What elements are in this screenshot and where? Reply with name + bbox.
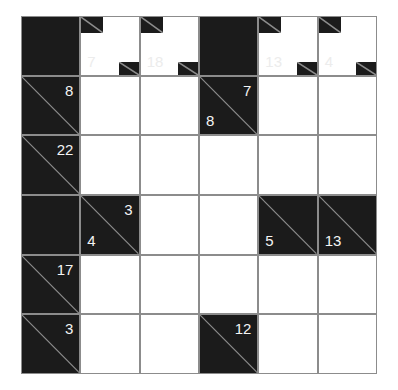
across-clue: 17 <box>57 262 74 277</box>
entry-cell[interactable] <box>141 136 198 194</box>
clue-cell-across-12: 12 <box>200 315 257 373</box>
clue-cell-down-13: 13 <box>319 196 376 254</box>
entry-cell[interactable] <box>259 136 316 194</box>
entry-cell[interactable] <box>200 136 257 194</box>
kakuro-board: 7 18 13 4 8 7 8 22 3 4 <box>21 16 377 374</box>
across-clue: 3 <box>65 321 73 336</box>
clue-cell-down-4: 4 <box>319 17 376 75</box>
entry-cell[interactable] <box>319 77 376 135</box>
across-clue: 12 <box>235 321 252 336</box>
entry-cell[interactable] <box>319 256 376 314</box>
clue-fragment <box>81 17 103 33</box>
across-clue: 8 <box>65 83 73 98</box>
clue-fragment <box>259 17 281 33</box>
entry-cell[interactable] <box>319 136 376 194</box>
across-clue: 22 <box>57 142 74 157</box>
down-clue: 4 <box>87 233 95 248</box>
entry-cell[interactable] <box>141 256 198 314</box>
clue-cell-across-22: 22 <box>22 136 79 194</box>
entry-cell[interactable] <box>81 136 138 194</box>
entry-cell[interactable] <box>200 256 257 314</box>
down-clue: 5 <box>265 233 273 248</box>
clue-fragment <box>119 62 139 75</box>
clue-fragment <box>178 62 198 75</box>
down-clue: 13 <box>325 233 342 248</box>
entry-cell[interactable] <box>319 315 376 373</box>
entry-cell[interactable] <box>259 315 316 373</box>
entry-cell[interactable] <box>81 256 138 314</box>
clue-fragment <box>356 62 376 75</box>
down-clue: 4 <box>325 54 333 69</box>
entry-cell[interactable] <box>141 315 198 373</box>
entry-cell[interactable] <box>141 196 198 254</box>
entry-cell[interactable] <box>81 77 138 135</box>
entry-cell[interactable] <box>259 77 316 135</box>
down-clue: 18 <box>147 54 164 69</box>
clue-cell-across-17: 17 <box>22 256 79 314</box>
clue-cell-across-3: 3 <box>22 315 79 373</box>
entry-cell[interactable] <box>259 256 316 314</box>
clue-cell-down-5: 5 <box>259 196 316 254</box>
clue-cell-across-8: 8 <box>22 77 79 135</box>
clue-cell-down-7: 7 <box>81 17 138 75</box>
clue-cell-down-4-across-3: 3 4 <box>81 196 138 254</box>
clue-cell-down-8-across-7: 7 8 <box>200 77 257 135</box>
clue-fragment <box>297 62 317 75</box>
down-clue: 8 <box>206 113 214 128</box>
clue-cell-down-13: 13 <box>259 17 316 75</box>
clue-fragment <box>319 17 341 33</box>
clue-cell-down-18: 18 <box>141 17 198 75</box>
entry-cell[interactable] <box>200 196 257 254</box>
block-cell <box>22 196 79 254</box>
down-clue: 13 <box>265 54 282 69</box>
down-clue: 7 <box>87 54 95 69</box>
entry-cell[interactable] <box>81 315 138 373</box>
clue-fragment <box>141 17 163 33</box>
block-cell <box>200 17 257 75</box>
block-cell <box>22 17 79 75</box>
entry-cell[interactable] <box>141 77 198 135</box>
across-clue: 3 <box>124 202 132 217</box>
across-clue: 7 <box>243 83 251 98</box>
